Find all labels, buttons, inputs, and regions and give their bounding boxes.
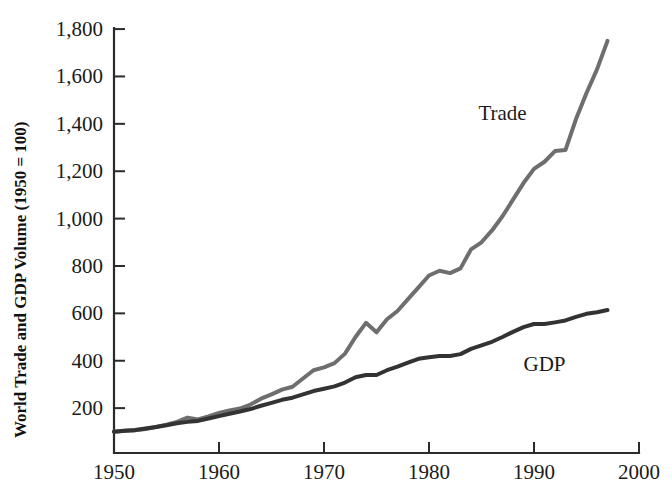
x-tick-label: 1950 bbox=[93, 460, 135, 484]
y-tick-label: 1,800 bbox=[56, 17, 103, 41]
world-trade-gdp-line-chart: World Trade and GDP Volume (1950 = 100) … bbox=[0, 0, 672, 503]
series-annotations: TradeGDP bbox=[478, 101, 565, 376]
y-axis-title: World Trade and GDP Volume (1950 = 100) bbox=[11, 121, 30, 438]
x-axis-ticks: 195019601970198019902000 bbox=[93, 442, 660, 484]
x-tick-label: 1960 bbox=[198, 460, 240, 484]
series-label-trade: Trade bbox=[478, 101, 526, 125]
y-tick-label: 600 bbox=[72, 301, 104, 325]
y-axis-title-label: World Trade and GDP Volume (1950 = 100) bbox=[11, 121, 30, 438]
y-tick-label: 800 bbox=[72, 254, 104, 278]
x-tick-label: 2000 bbox=[618, 460, 660, 484]
chart-page: World Trade and GDP Volume (1950 = 100) … bbox=[0, 0, 672, 503]
y-tick-label: 1,200 bbox=[56, 159, 103, 183]
x-tick-label: 1970 bbox=[303, 460, 345, 484]
x-tick-label: 1990 bbox=[513, 460, 555, 484]
y-tick-label: 400 bbox=[72, 349, 104, 373]
chart-axes bbox=[114, 28, 639, 453]
x-tick-label: 1980 bbox=[408, 460, 450, 484]
y-tick-label: 200 bbox=[72, 396, 104, 420]
axis-lines bbox=[114, 28, 639, 453]
y-tick-label: 1,000 bbox=[56, 207, 103, 231]
y-tick-label: 1,600 bbox=[56, 64, 103, 88]
series-label-gdp: GDP bbox=[523, 352, 565, 376]
y-tick-label: 1,400 bbox=[56, 112, 103, 136]
